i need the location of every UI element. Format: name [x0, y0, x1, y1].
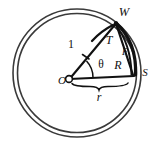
label-O: O: [58, 74, 66, 86]
geometry-figure: W T F R S θ 1 r O: [0, 0, 156, 146]
sector-base: [70, 76, 135, 79]
base-brace: [72, 83, 128, 90]
label-r: r: [97, 90, 102, 104]
label-theta: θ: [98, 58, 104, 70]
label-W: W: [119, 5, 131, 19]
label-R: R: [113, 58, 122, 72]
label-one: 1: [68, 37, 74, 51]
angle-arc-theta: [87, 61, 94, 78]
label-T: T: [106, 33, 114, 47]
geometry-diagram-canvas: W T F R S θ 1 r O: [0, 0, 156, 146]
label-S: S: [142, 66, 148, 78]
label-F: F: [121, 47, 128, 57]
vertex-o-marker: [66, 76, 73, 83]
vertex-w-marker: [114, 21, 119, 26]
